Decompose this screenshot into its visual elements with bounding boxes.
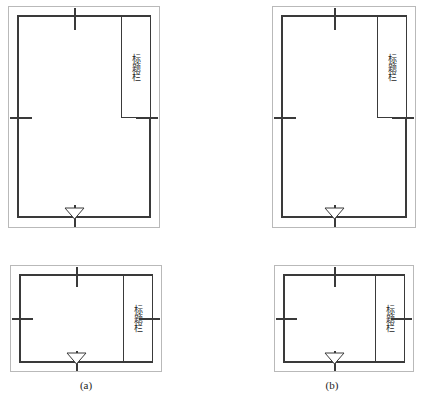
sheet-bottom-right: 标题栏 — [274, 265, 414, 372]
orientation-triangle-icon — [324, 207, 345, 220]
engineering-drawing-figure: 标题栏 标题栏 — [0, 0, 424, 398]
centering-mark-top — [74, 8, 76, 30]
caption-a: (a) — [56, 379, 116, 391]
centering-mark-right — [392, 117, 414, 119]
orientation-triangle-icon — [324, 352, 345, 365]
orientation-triangle-icon — [66, 352, 87, 365]
title-block-label: 标题栏 — [387, 54, 396, 81]
sheet-top-right: 标题栏 — [272, 6, 416, 228]
centering-mark-top — [76, 267, 78, 287]
sheet-bottom-left: 标题栏 — [10, 265, 162, 372]
centering-mark-top — [334, 267, 336, 287]
title-block: 标题栏 — [121, 16, 151, 118]
centering-mark-right — [136, 117, 158, 119]
centering-mark-left — [276, 318, 297, 320]
centering-mark-right — [139, 318, 160, 320]
title-block-label: 标题栏 — [131, 54, 140, 81]
caption-b: (b) — [302, 379, 362, 391]
orientation-triangle-icon — [64, 207, 85, 220]
centering-mark-right — [391, 318, 412, 320]
centering-mark-left — [10, 117, 32, 119]
centering-mark-top — [334, 8, 336, 30]
centering-mark-left — [12, 318, 33, 320]
sheet-top-left: 标题栏 — [8, 6, 160, 228]
centering-mark-left — [274, 117, 296, 119]
title-block: 标题栏 — [377, 16, 407, 118]
